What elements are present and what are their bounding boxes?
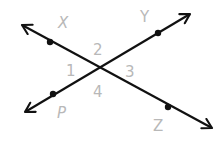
angle-label-2: 2 <box>93 41 103 59</box>
angle-label-4: 4 <box>93 83 103 101</box>
angle-label-1: 1 <box>66 62 76 80</box>
point-y-dot <box>155 30 161 36</box>
point-label-p: P <box>57 104 67 122</box>
intersecting-lines-diagram: X Y P Z 1 2 3 4 <box>0 0 217 141</box>
line-py <box>25 14 190 112</box>
point-x-dot <box>47 39 53 45</box>
angle-label-3: 3 <box>125 63 135 81</box>
point-label-x: X <box>57 14 69 32</box>
point-p-dot <box>50 91 56 97</box>
point-z-dot <box>165 104 171 110</box>
point-label-z: Z <box>153 117 163 135</box>
point-label-y: Y <box>139 8 150 26</box>
